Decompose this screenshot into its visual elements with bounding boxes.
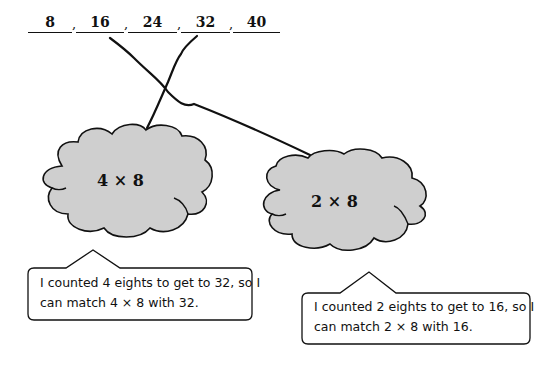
callout-left-line1: I counted 4 eights to get to 32, so I	[40, 273, 260, 293]
connector-line-32-to-4x8	[147, 36, 197, 128]
callout-right-line2: can match 2 × 8 with 16.	[314, 317, 534, 337]
callout-left-line2: can match 4 × 8 with 32.	[40, 293, 260, 313]
skip-counting-diagram: 8 , 16 , 24 , 32 , 40 4 × 8 2 × 8 I coun…	[0, 0, 550, 365]
cloud-left-label: 4 × 8	[97, 171, 144, 190]
callout-right-line1: I counted 2 eights to get to 16, so I	[314, 297, 534, 317]
cloud-right-label: 2 × 8	[311, 192, 358, 211]
callout-left-text: I counted 4 eights to get to 32, so I ca…	[40, 273, 260, 313]
callout-right-text: I counted 2 eights to get to 16, so I ca…	[314, 297, 534, 337]
